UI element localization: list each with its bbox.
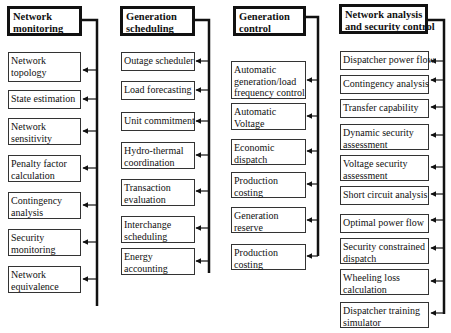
item-line: generation/load <box>234 76 303 88</box>
header-line: and security control <box>345 21 422 33</box>
item-line: Load forecasting <box>124 84 192 96</box>
header-line: Network analysis <box>345 9 422 21</box>
item-security-constrained-dispatch: Security constrained dispatch <box>340 238 429 264</box>
item-line: Wheeling loss <box>343 272 426 284</box>
item-production-costing-1: Production costing <box>231 172 306 198</box>
item-load-forecasting: Load forecasting <box>121 81 195 100</box>
item-generation-reserve: Generation reserve <box>231 207 306 233</box>
item-line: accounting <box>124 263 192 275</box>
item-line: costing <box>234 187 303 199</box>
item-dynamic-security-assessment: Dynamic security assessment <box>340 124 429 150</box>
item-optimal-power-flow: Optimal power flow <box>340 214 429 233</box>
item-line: evaluation <box>124 194 192 206</box>
item-economic-dispatch: Economic dispatch <box>231 139 306 165</box>
item-wheeling-loss-calculation: Wheeling loss calculation <box>340 269 429 295</box>
item-automatic-voltage: Automatic Voltage <box>231 103 306 130</box>
item-line: assessment <box>343 170 426 182</box>
item-line: Voltage <box>234 118 303 130</box>
item-dispatcher-power-flow: Dispatcher power flow <box>340 51 429 70</box>
item-line: Interchange <box>124 219 192 231</box>
item-network-topology: Network topology <box>8 52 81 82</box>
item-line: simulator <box>343 317 426 329</box>
item-line: Security <box>11 232 78 244</box>
item-line: topology <box>11 67 78 79</box>
item-line: Optimal power flow <box>343 217 426 229</box>
bus-network-monitoring <box>81 20 97 306</box>
item-line: Dynamic security <box>343 127 426 139</box>
item-line: Hydro-thermal <box>124 145 192 157</box>
header-line: control <box>239 23 300 35</box>
item-line: costing <box>234 259 303 271</box>
item-line: Network <box>11 269 78 281</box>
item-line: State estimation <box>11 93 78 105</box>
item-line: reserve <box>234 222 303 234</box>
item-security-monitoring: Security monitoring <box>8 229 81 256</box>
item-line: Penalty factor <box>11 158 78 170</box>
bus-generation-scheduling <box>194 20 209 273</box>
item-line: Voltage security <box>343 158 426 170</box>
item-line: sensitivity <box>11 133 78 145</box>
header-generation-control: Generation control <box>233 6 306 36</box>
item-line: Production <box>234 247 303 259</box>
item-state-estimation: State estimation <box>8 90 81 109</box>
item-line: Transfer capability <box>343 102 426 114</box>
item-dispatcher-training-simulator: Dispatcher training simulator <box>340 302 429 328</box>
item-line: Dispatcher training <box>343 305 426 317</box>
header-line: Generation <box>239 11 300 23</box>
item-line: scheduling <box>124 231 192 243</box>
item-network-equivalence: Network equivalence <box>8 266 81 293</box>
header-network-monitoring: Network monitoring <box>7 6 82 36</box>
header-line: Generation <box>126 11 189 23</box>
item-line: Contingency analysis <box>343 78 426 90</box>
header-line: monitoring <box>13 23 76 35</box>
item-line: calculation <box>343 284 426 296</box>
item-line: Production <box>234 175 303 187</box>
item-outage-scheduler: Outage scheduler <box>121 52 195 71</box>
item-voltage-security-assessment: Voltage security assessment <box>340 155 429 181</box>
item-line: Energy <box>124 251 192 263</box>
item-network-sensitivity: Network sensitivity <box>8 118 81 145</box>
item-unit-commitment: Unit commitment <box>121 112 195 131</box>
item-line: Automatic <box>234 106 303 118</box>
item-transfer-capability: Transfer capability <box>340 99 429 118</box>
header-line: scheduling <box>126 23 189 35</box>
item-line: Dispatcher power flow <box>343 54 426 66</box>
item-line: coordination <box>124 157 192 169</box>
item-contingency-analysis-2: Contingency analysis <box>340 75 429 94</box>
header-line: Network <box>13 11 76 23</box>
item-penalty-factor-calculation: Penalty factor calculation <box>8 155 81 182</box>
item-line: Generation <box>234 210 303 222</box>
item-transaction-evaluation: Transaction evaluation <box>121 179 195 206</box>
item-hydro-thermal-coordination: Hydro-thermal coordination <box>121 142 195 169</box>
item-line: analysis <box>11 207 78 219</box>
item-line: frequency control <box>234 87 303 99</box>
item-interchange-scheduling: Interchange scheduling <box>121 216 195 243</box>
item-line: calculation <box>11 170 78 182</box>
item-line: Short circuit analysis <box>343 189 426 201</box>
item-automatic-generation-load-frequency-control: Automatic generation/load frequency cont… <box>231 61 306 99</box>
item-line: dispatch <box>234 154 303 166</box>
item-line: Network <box>11 55 78 67</box>
item-line: Economic <box>234 142 303 154</box>
item-line: Transaction <box>124 182 192 194</box>
item-line: Outage scheduler <box>124 55 192 67</box>
item-short-circuit-analysis: Short circuit analysis <box>340 186 429 205</box>
header-generation-scheduling: Generation scheduling <box>120 6 195 36</box>
item-line: Unit commitment <box>124 115 192 127</box>
item-production-costing-2: Production costing <box>231 244 306 270</box>
item-line: Security constrained <box>343 241 426 253</box>
item-line: Network <box>11 121 78 133</box>
item-energy-accounting: Energy accounting <box>121 248 195 275</box>
header-network-analysis-security-control: Network analysis and security control <box>339 4 428 34</box>
item-line: Contingency <box>11 195 78 207</box>
bus-generation-control <box>305 17 318 256</box>
item-line: Automatic <box>234 64 303 76</box>
item-contingency-analysis: Contingency analysis <box>8 192 81 219</box>
item-line: monitoring <box>11 244 78 256</box>
item-line: assessment <box>343 139 426 151</box>
item-line: equivalence <box>11 281 78 293</box>
item-line: dispatch <box>343 253 426 265</box>
